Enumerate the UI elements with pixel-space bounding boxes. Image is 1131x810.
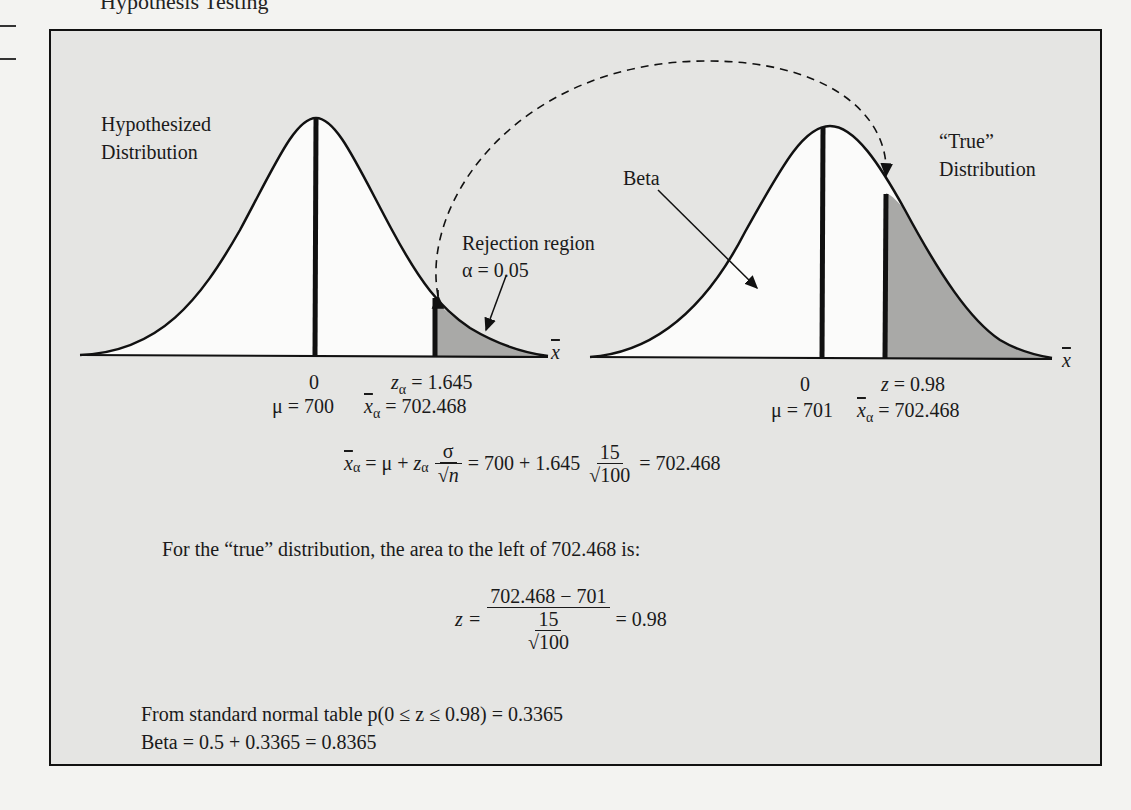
- rejection-region-label: Rejection region: [462, 231, 595, 255]
- hypothesized-title-line2: Distribution: [101, 140, 198, 164]
- xbar-alpha-label-right: xα = 702.468: [857, 398, 960, 425]
- true-title-line2: Distribution: [939, 157, 1036, 181]
- z-098-label: z = 0.98: [881, 372, 945, 396]
- z-score-equation: z = 702.468 − 701 15√100 = 0.98: [455, 585, 667, 653]
- normal-table-line: From standard normal table p(0 ≤ z ≤ 0.9…: [141, 702, 563, 726]
- beta-result-line: Beta = 0.5 + 0.3365 = 0.8365: [141, 730, 377, 754]
- z-line: [885, 194, 886, 359]
- true-distribution-sentence: For the “true” distribution, the area to…: [162, 537, 640, 561]
- xbar-alpha-label-left: xα = 702.468: [364, 394, 467, 421]
- x-axis-label-left: x: [551, 340, 560, 364]
- z-alpha-label: zα = 1.645: [391, 370, 472, 397]
- hypothesized-title-line1: Hypothesized: [101, 112, 211, 136]
- rejection-region-shade: [435, 298, 548, 356]
- mean-line: [822, 127, 823, 359]
- critical-value-equation: xα = μ + zα σ√n = 700 + 1.645 15√100 = 7…: [344, 440, 720, 486]
- true-title-line1: “True”: [939, 129, 994, 153]
- alpha-label: α = 0.05: [462, 258, 529, 282]
- zero-label-right: 0: [800, 372, 810, 396]
- mean-line: [315, 119, 316, 356]
- beta-label: Beta: [623, 166, 660, 190]
- mu-701-label: μ = 701: [771, 398, 833, 422]
- beta-complement-shade: [886, 193, 1052, 358]
- x-axis-label-right: x: [1062, 348, 1071, 372]
- zero-label-left: 0: [309, 370, 319, 394]
- mu-700-label: μ = 700: [272, 394, 334, 418]
